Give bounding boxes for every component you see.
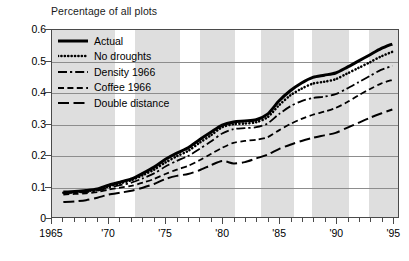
x-axis-minor-tick: [74, 218, 75, 222]
legend-line-swatch: [58, 35, 88, 47]
x-axis-tick-label: '95: [386, 227, 400, 239]
y-axis-tick: [45, 29, 51, 30]
x-axis-minor-tick: [85, 218, 86, 222]
x-axis-minor-tick: [131, 218, 132, 222]
legend-item: No droughts: [58, 49, 208, 65]
legend-line-swatch: [58, 66, 88, 78]
y-axis-tick-label: 0.6: [18, 24, 46, 35]
y-axis-tick-label: 0.4: [18, 87, 46, 98]
legend-line-swatch: [58, 97, 88, 109]
y-axis-tick: [45, 218, 51, 219]
legend-line-swatch: [58, 50, 88, 62]
x-axis-major-tick: [336, 218, 337, 224]
y-axis-tick: [45, 92, 51, 93]
x-axis-minor-tick: [359, 218, 360, 222]
x-axis-minor-tick: [370, 218, 371, 222]
x-axis-major-tick: [222, 218, 223, 224]
y-axis-tick-label: 0.5: [18, 56, 46, 67]
x-axis-major-tick: [279, 218, 280, 224]
x-axis-tick-label: '70: [101, 227, 115, 239]
legend-item-label: Actual: [94, 36, 123, 47]
y-axis-tick: [45, 155, 51, 156]
y-axis-tick-label: 0.2: [18, 150, 46, 161]
chart-figure: Percentage of all plots 0.60.50.40.30.20…: [0, 0, 409, 261]
y-axis-tick-label: 0: [18, 213, 46, 224]
x-axis-minor-tick: [382, 218, 383, 222]
x-axis-minor-tick: [97, 218, 98, 222]
legend-item-label: Coffee 1966: [94, 82, 151, 93]
x-axis-minor-tick: [177, 218, 178, 222]
x-axis-major-tick: [108, 218, 109, 224]
y-axis-tick-label: 0.3: [18, 119, 46, 130]
legend-line-swatch: [58, 82, 88, 94]
legend-item-label: Double distance: [94, 98, 169, 109]
x-axis-minor-tick: [119, 218, 120, 222]
x-axis-minor-tick: [313, 218, 314, 222]
legend-item: Actual: [58, 33, 208, 49]
chart-title: Percentage of all plots: [51, 5, 157, 17]
x-axis-minor-tick: [199, 218, 200, 222]
legend-item: Double distance: [58, 95, 208, 111]
x-axis-tick-label: '90: [329, 227, 343, 239]
x-axis-major-tick: [165, 218, 166, 224]
x-axis-minor-tick: [268, 218, 269, 222]
x-axis-tick-label: '80: [215, 227, 229, 239]
x-axis-minor-tick: [325, 218, 326, 222]
y-axis-tick: [45, 124, 51, 125]
x-axis-minor-tick: [62, 218, 63, 222]
chart-legend: ActualNo droughtsDensity 1966Coffee 1966…: [58, 33, 208, 111]
y-axis-tick-label: 0.1: [18, 182, 46, 193]
x-axis-minor-tick: [142, 218, 143, 222]
x-axis-tick-label: '75: [158, 227, 172, 239]
y-axis-labels: 0.60.50.40.30.20.10: [14, 0, 46, 261]
x-axis-labels: 1965'70'75'80'85'90'95: [0, 227, 409, 243]
x-axis-minor-tick: [188, 218, 189, 222]
x-axis-minor-tick: [291, 218, 292, 222]
x-axis-major-tick: [51, 218, 52, 224]
x-axis-minor-tick: [154, 218, 155, 222]
x-axis-minor-tick: [245, 218, 246, 222]
legend-item-label: No droughts: [94, 51, 151, 62]
x-axis-minor-tick: [302, 218, 303, 222]
x-axis-tick-label: 1965: [39, 227, 62, 239]
x-axis-minor-tick: [256, 218, 257, 222]
legend-item-label: Density 1966: [94, 67, 155, 78]
y-axis-tick: [45, 187, 51, 188]
x-axis-minor-tick: [348, 218, 349, 222]
x-axis-minor-tick: [211, 218, 212, 222]
x-axis-minor-tick: [234, 218, 235, 222]
x-axis-tick-label: '85: [272, 227, 286, 239]
x-axis-ticks: [51, 218, 399, 225]
y-axis-tick: [45, 61, 51, 62]
legend-item: Density 1966: [58, 64, 208, 80]
x-axis-major-tick: [393, 218, 394, 224]
legend-item: Coffee 1966: [58, 80, 208, 96]
